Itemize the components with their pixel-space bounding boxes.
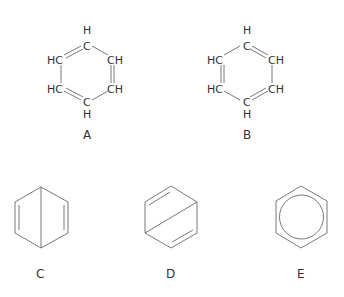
label-a: A (83, 128, 92, 142)
structure-a: H C HC CH HC CH C H A (47, 24, 123, 142)
structure-d: D (145, 186, 197, 281)
atom-lower-left: HC (207, 83, 223, 96)
double-bond-top-right-2 (250, 49, 266, 58)
bond-bottom-right (92, 91, 108, 100)
double-bond-bottom-left (64, 91, 81, 100)
hexagon (145, 186, 197, 248)
atom-lower-right: CH (268, 83, 284, 96)
label-d: D (166, 267, 175, 281)
bond-top-right (92, 46, 108, 55)
atom-upper-right: CH (268, 54, 284, 67)
label-e: E (297, 267, 305, 281)
label-c: C (36, 267, 44, 281)
double-bond-bottom-inner (172, 230, 193, 242)
structure-b: H C HC CH HC CH C H B (207, 24, 284, 142)
atom-top-c: C (243, 40, 251, 53)
double-bond-top-left-2 (66, 49, 83, 58)
atom-bottom-h: H (83, 108, 91, 121)
double-bond-top-inner (149, 192, 170, 205)
double-bond-bottom-right (252, 91, 268, 100)
double-bond-top-left (64, 46, 81, 55)
aromatic-circle (280, 195, 324, 239)
atom-top-h: H (83, 24, 91, 37)
hexagon (15, 187, 68, 248)
double-bond-top-right (252, 46, 268, 55)
atom-upper-right: CH (107, 54, 123, 67)
double-bond-bottom-right-2 (250, 88, 266, 97)
atom-bottom-h: H (243, 108, 251, 121)
structure-e: E (276, 186, 327, 281)
benzene-structures-diagram: H C HC CH HC CH C H A H C HC CH HC CH C … (0, 0, 344, 297)
atom-top-h: H (243, 24, 251, 37)
double-bond-bottom-left-2 (66, 88, 83, 97)
bond-bottom-left (224, 91, 240, 100)
structure-c: C (15, 187, 68, 281)
diagonal-bond (145, 202, 197, 233)
atom-lower-left: HC (47, 83, 63, 96)
atom-top-c: C (83, 40, 91, 53)
bond-top-left (224, 46, 240, 55)
atom-lower-right: CH (107, 83, 123, 96)
label-b: B (243, 128, 251, 142)
